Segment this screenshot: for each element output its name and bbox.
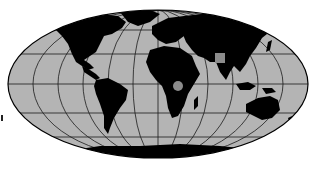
marker-square xyxy=(215,53,225,63)
edge-mark xyxy=(1,115,3,121)
marker-circle xyxy=(173,81,183,91)
world-map-svg xyxy=(0,0,319,174)
antarctica xyxy=(20,144,300,174)
